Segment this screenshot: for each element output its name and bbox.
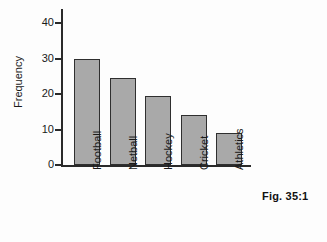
y-tick-label: 20 xyxy=(42,88,54,99)
y-tick-label: 10 xyxy=(42,124,54,135)
y-tick-label-row: 10 xyxy=(0,124,54,136)
x-category-label: Cricket xyxy=(199,136,210,170)
y-tick-mark xyxy=(55,22,62,24)
x-category-label: Netball xyxy=(128,136,139,170)
y-tick-label-row: 20 xyxy=(0,88,54,100)
plot-area: Frequency 010203040 FootballNetballHocke… xyxy=(0,0,327,242)
y-tick-mark xyxy=(55,129,62,131)
y-axis-line xyxy=(61,9,63,167)
y-tick-label-row: 0 xyxy=(0,159,54,171)
x-category-label: Hockey xyxy=(163,133,174,170)
y-tick-mark xyxy=(55,164,62,166)
x-axis-line xyxy=(61,165,251,167)
figure-caption: Fig. 35:1 xyxy=(262,190,308,202)
y-tick-label-row: 40 xyxy=(0,17,54,29)
x-category-label: Athletics xyxy=(234,128,245,170)
y-tick-label: 40 xyxy=(42,17,54,28)
y-tick-mark xyxy=(55,93,62,95)
y-tick-mark xyxy=(55,58,62,60)
figure-bar-chart: Frequency 010203040 FootballNetballHocke… xyxy=(0,0,327,242)
y-tick-label: 0 xyxy=(48,159,54,170)
y-tick-label-row: 30 xyxy=(0,53,54,65)
x-category-label: Football xyxy=(92,131,103,170)
y-tick-label: 30 xyxy=(42,53,54,64)
